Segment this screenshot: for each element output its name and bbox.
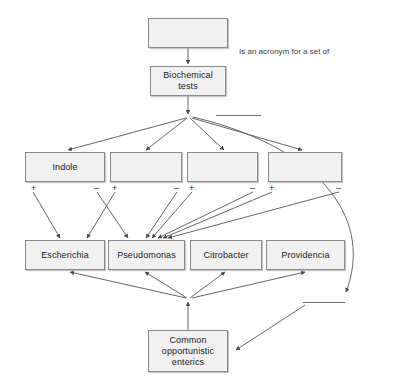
node-test-2[interactable] — [110, 152, 182, 182]
edge-hub2-to-citrobacter — [190, 272, 225, 298]
edge-test3-minus-pseudomonas — [158, 192, 253, 238]
edge-test2-plus-escherichia — [87, 192, 115, 238]
node-test-3[interactable] — [187, 152, 258, 182]
edge-test4-minus-pseudomonas — [168, 192, 339, 238]
annotation-acronym-text: Is an acronym for a set of — [239, 47, 329, 57]
node-biochemical-tests[interactable]: Biochemical tests — [150, 66, 226, 96]
sign-test2-minus: – — [174, 184, 179, 193]
edge-hub-to-test2 — [146, 118, 187, 150]
node-top-blank[interactable] — [148, 18, 228, 48]
sign-test3-minus: – — [250, 184, 255, 193]
sign-test1-plus: + — [31, 184, 36, 193]
edge-test4-plus-pseudomonas — [163, 192, 272, 238]
annotation-blank-label-lower[interactable] — [303, 302, 345, 303]
sign-test4-minus: – — [336, 184, 341, 193]
node-biochemical-tests-label: Biochemical tests — [161, 70, 215, 92]
node-test-2-label — [144, 167, 148, 168]
edge-hub-to-test1 — [68, 118, 186, 150]
edge-test1-plus-escherichia — [33, 192, 60, 238]
edge-test1-minus-pseudomonas — [97, 192, 128, 238]
edge-lower-label-to-common — [236, 305, 305, 350]
node-test-3-label — [221, 167, 225, 168]
node-genus-escherichia-label: Escherichia — [39, 250, 91, 261]
edge-hub2-to-pseudomonas — [145, 272, 187, 298]
edge-test2-minus-pseudomonas — [146, 192, 177, 238]
node-genus-citrobacter-label: Citrobacter — [201, 250, 250, 261]
node-genus-providencia-label: Providencia — [279, 250, 331, 261]
node-common-label: Common opportunistic enterics — [160, 335, 216, 368]
edge-hub-to-test4 — [192, 118, 302, 150]
sign-test1-minus: – — [94, 184, 99, 193]
node-genus-pseudomonas[interactable]: Pseudomonas — [108, 240, 185, 270]
node-genus-pseudomonas-label: Pseudomonas — [115, 250, 178, 261]
node-genus-escherichia[interactable]: Escherichia — [25, 240, 105, 270]
node-common-opportunistic-enterics[interactable]: Common opportunistic enterics — [148, 330, 228, 372]
edge-hub2-to-providencia — [192, 272, 305, 298]
node-test-4-label — [303, 167, 307, 168]
sign-test2-plus: + — [112, 184, 117, 193]
edge-test3-plus-pseudomonas — [152, 192, 192, 238]
annotation-blank-label-upper[interactable] — [216, 115, 261, 116]
node-test-indole-label: Indole — [50, 162, 79, 173]
edge-hub-to-test3 — [190, 118, 224, 150]
node-genus-providencia[interactable]: Providencia — [266, 240, 345, 270]
sign-test3-plus: + — [189, 184, 194, 193]
node-genus-citrobacter[interactable]: Citrobacter — [190, 240, 262, 270]
node-test-4[interactable] — [268, 152, 342, 182]
edge-hub2-to-escherichia — [70, 272, 186, 298]
diagram-canvas: Biochemical tests Indole Escherichia Pse… — [0, 0, 397, 391]
sign-test4-plus: + — [269, 184, 274, 193]
node-test-indole[interactable]: Indole — [25, 152, 105, 182]
node-top-blank-label — [186, 33, 190, 34]
